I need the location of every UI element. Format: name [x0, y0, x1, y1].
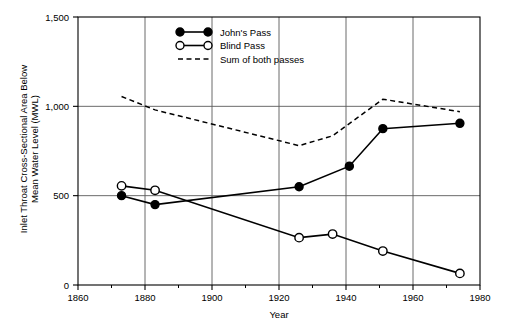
x-tick-labels: 1860188019001920194019601980Year	[67, 292, 490, 320]
svg-text:1,000: 1,000	[45, 101, 69, 112]
svg-text:1940: 1940	[335, 292, 356, 303]
y-axis-title-line2: Mean Water Level (MWL)	[29, 24, 40, 274]
svg-text:1920: 1920	[268, 292, 289, 303]
svg-text:1900: 1900	[201, 292, 222, 303]
line-chart: 1860188019001920194019601980Year 05001,0…	[0, 0, 508, 328]
svg-text:1,500: 1,500	[45, 12, 69, 23]
svg-text:Sum of both passes: Sum of both passes	[220, 54, 304, 65]
svg-text:1880: 1880	[134, 292, 155, 303]
y-axis-title-line1: Inlet Throat Cross-Sectional Area Below	[18, 24, 29, 274]
y-tick-labels: 05001,0001,500	[45, 12, 69, 291]
chart-legend: John's PassBlind PassSum of both passes	[176, 27, 304, 65]
data-series	[117, 97, 464, 278]
chart-container: 1860188019001920194019601980Year 05001,0…	[0, 0, 508, 328]
y-axis-title: Inlet Throat Cross-Sectional Area Below …	[2, 0, 38, 328]
svg-text:1960: 1960	[402, 292, 423, 303]
svg-text:Year: Year	[269, 309, 288, 320]
svg-text:Blind Pass: Blind Pass	[220, 40, 265, 51]
svg-text:0: 0	[64, 280, 69, 291]
svg-text:500: 500	[53, 190, 69, 201]
svg-text:1980: 1980	[469, 292, 490, 303]
svg-text:1860: 1860	[67, 292, 88, 303]
svg-text:John's Pass: John's Pass	[220, 27, 271, 38]
